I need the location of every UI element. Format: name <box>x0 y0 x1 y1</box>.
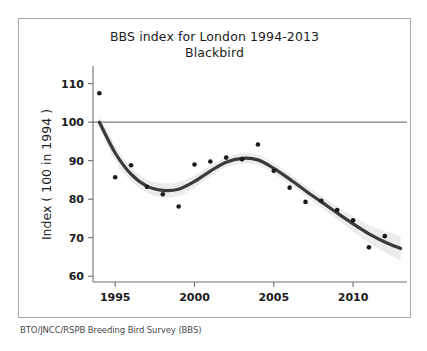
x-tick-label: 2005 <box>258 291 289 304</box>
data-points <box>97 91 387 250</box>
x-tick-label: 1995 <box>100 291 131 304</box>
x-tick-label: 2000 <box>179 291 210 304</box>
source-caption: BTO/JNCC/RSPB Breeding Bird Survey (BBS) <box>20 325 201 335</box>
figure-root: BBS index for London 1994-2013Blackbird … <box>0 0 427 351</box>
plot-area: 60708090100110 1995200020052010 <box>19 19 410 317</box>
x-axis-ticks: 1995200020052010 <box>100 282 369 304</box>
y-tick-label: 80 <box>69 193 85 206</box>
confidence-band <box>99 116 400 260</box>
chart-frame: BBS index for London 1994-2013Blackbird … <box>18 18 411 318</box>
y-tick-label: 100 <box>61 116 84 129</box>
x-tick-label: 2010 <box>338 291 369 304</box>
y-tick-label: 60 <box>69 270 85 283</box>
y-tick-label: 70 <box>69 232 85 245</box>
axis-lines <box>93 66 407 282</box>
y-axis-ticks: 60708090100110 <box>61 78 93 284</box>
y-tick-label: 90 <box>69 155 85 168</box>
y-tick-label: 110 <box>61 78 84 91</box>
